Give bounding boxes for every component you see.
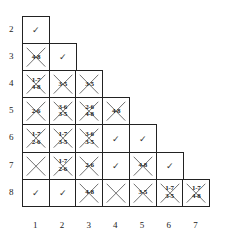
table-cell: 1-73-5 xyxy=(49,124,77,152)
table-cell: 2-64-8 xyxy=(75,97,103,125)
row-label: 2 xyxy=(9,24,14,34)
table-cell: 1-73-5 xyxy=(156,179,184,207)
table-cell: 4-8 xyxy=(75,179,103,207)
cell-label: 4-8 xyxy=(112,108,120,116)
check-icon: ✓ xyxy=(112,161,120,171)
check-icon: ✓ xyxy=(139,134,147,144)
cell-label: 2-6 xyxy=(85,162,93,170)
table-cell: 3-5 xyxy=(129,179,157,207)
table-cell: 1-72-6 xyxy=(22,124,50,152)
table-cell: 3-63-5 xyxy=(49,97,77,125)
cell-label: 1-72-6 xyxy=(58,158,66,173)
column-label: 5 xyxy=(140,220,145,230)
table-cell: ✓ xyxy=(49,43,77,71)
column-label: 7 xyxy=(193,220,198,230)
row-label: 7 xyxy=(9,160,14,170)
table-cell: 3-5 xyxy=(49,70,77,98)
row-label: 4 xyxy=(9,78,14,88)
check-icon: ✓ xyxy=(112,134,120,144)
row-label: 3 xyxy=(9,51,14,61)
cell-label: 4-8 xyxy=(139,162,147,170)
column-label: 2 xyxy=(60,220,65,230)
table-cell: ✓ xyxy=(156,152,184,180)
row-label: 5 xyxy=(9,105,14,115)
cell-label: 2-64-8 xyxy=(85,104,93,119)
table-cell: 2-6 xyxy=(75,152,103,180)
table-cell: 3-5 xyxy=(75,70,103,98)
check-icon: ✓ xyxy=(59,52,67,62)
table-cell: ✓ xyxy=(22,16,50,44)
table-cell: ✓ xyxy=(22,179,50,207)
check-icon: ✓ xyxy=(32,188,40,198)
table-cell: 1-72-6 xyxy=(49,152,77,180)
table-cell: 1-74-8 xyxy=(22,70,50,98)
table-cell: ✓ xyxy=(102,152,130,180)
cell-label: 1-73-5 xyxy=(165,185,173,200)
cell-label: 4-8 xyxy=(32,54,40,62)
column-label: 3 xyxy=(86,220,91,230)
table-cell: 3-63-5 xyxy=(75,124,103,152)
row-label: 8 xyxy=(9,187,14,197)
column-label: 6 xyxy=(167,220,172,230)
table-cell: 4-8 xyxy=(129,152,157,180)
table-cell: 1-74-8 xyxy=(182,179,210,207)
cell-label: 2-6 xyxy=(32,108,40,116)
check-icon: ✓ xyxy=(32,25,40,35)
check-icon: ✓ xyxy=(166,161,174,171)
cell-label: 4-8 xyxy=(85,189,93,197)
table-cell xyxy=(22,152,50,180)
table-cell: 4-8 xyxy=(22,43,50,71)
table-cell: 2-6 xyxy=(22,97,50,125)
table-cell: ✓ xyxy=(129,124,157,152)
check-icon: ✓ xyxy=(59,188,67,198)
column-label: 1 xyxy=(33,220,38,230)
cell-label: 3-63-5 xyxy=(85,131,93,146)
column-label: 4 xyxy=(113,220,118,230)
table-cell: ✓ xyxy=(49,179,77,207)
cell-label: 1-74-8 xyxy=(32,77,40,92)
cell-label: 1-74-8 xyxy=(192,185,200,200)
cell-label: 1-72-6 xyxy=(32,131,40,146)
cell-label: 3-5 xyxy=(139,189,147,197)
table-cell: 4-8 xyxy=(102,97,130,125)
cell-label: 1-73-5 xyxy=(58,131,66,146)
table-cell: ✓ xyxy=(102,124,130,152)
cell-label: 3-5 xyxy=(85,81,93,89)
cell-label: 3-63-5 xyxy=(58,104,66,119)
row-label: 6 xyxy=(9,132,14,142)
cross-icon xyxy=(23,153,49,179)
cross-icon xyxy=(103,180,129,206)
cell-label: 3-5 xyxy=(58,81,66,89)
table-cell xyxy=(102,179,130,207)
